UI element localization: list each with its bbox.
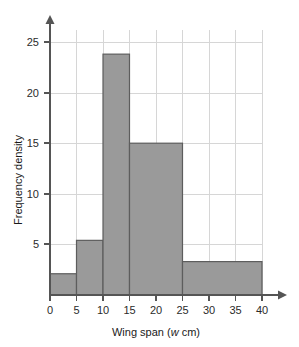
x-tick-label-15: 15 <box>123 304 135 316</box>
y-tick-label-10: 10 <box>27 188 39 200</box>
y-axis-title: Frequency density <box>12 135 24 225</box>
y-tick-label-25: 25 <box>27 36 39 48</box>
x-tick-label-25: 25 <box>176 304 188 316</box>
x-tick-label-30: 30 <box>203 304 215 316</box>
y-tick-label-15: 15 <box>27 137 39 149</box>
bar-bin-15-25 <box>130 143 183 295</box>
frequency-density-histogram: 0 5 10 15 20 25 30 35 40 25 20 15 10 5 F… <box>0 0 299 347</box>
x-tick-label-40: 40 <box>256 304 268 316</box>
bar-bin-0-5 <box>50 274 77 295</box>
x-axis-title: Wing span (w cm) <box>112 326 200 338</box>
x-tick-label-20: 20 <box>150 304 162 316</box>
bar-bin-25-40 <box>183 262 263 295</box>
y-tick-label-5: 5 <box>33 238 39 250</box>
x-axis-title-unit: cm) <box>179 326 200 338</box>
bar-bin-5-10 <box>77 240 104 295</box>
x-tick-label-10: 10 <box>97 304 109 316</box>
bar-bin-10-15 <box>103 54 130 295</box>
histogram-figure: 0 5 10 15 20 25 30 35 40 25 20 15 10 5 F… <box>0 0 299 347</box>
x-axis-title-text: Wing span ( <box>112 326 171 338</box>
x-tick-label-5: 5 <box>73 304 79 316</box>
y-tick-label-20: 20 <box>27 87 39 99</box>
x-tick-label-35: 35 <box>229 304 241 316</box>
x-tick-label-0: 0 <box>47 304 53 316</box>
